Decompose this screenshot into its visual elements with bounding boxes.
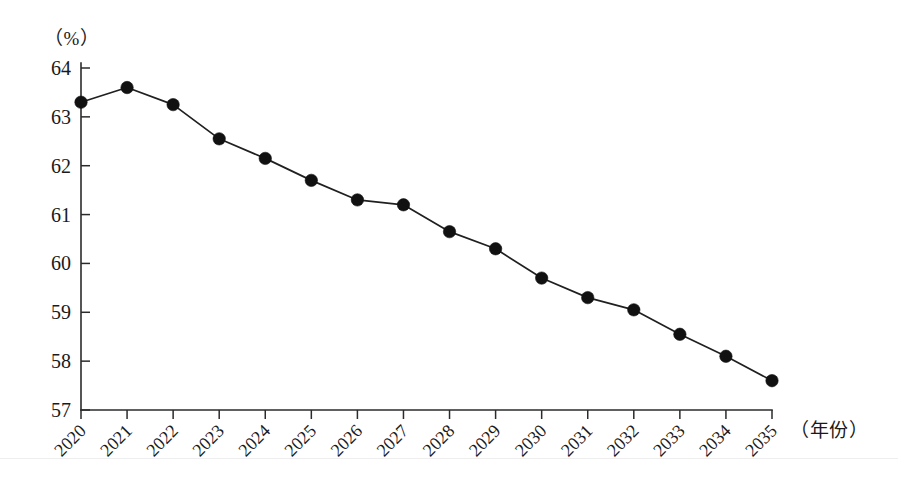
x-axis-tick-label: 2021 [96,421,136,461]
y-axis-tick-label: 64 [51,57,71,79]
y-axis-tick-label: 60 [51,252,71,274]
x-axis-tick-label: 2032 [603,421,643,461]
data-point-marker [628,304,640,316]
y-axis-tick-label: 58 [51,350,71,372]
chart-figure: （%） （年份） 5758596061626364 20202021202220… [0,0,898,477]
x-axis-tick-label: 2031 [557,421,597,461]
x-axis-tick-label: 2025 [281,421,321,461]
data-point-marker [351,194,363,206]
y-axis-unit-label: （%） [44,28,99,49]
x-axis-tick-label: 2028 [419,421,459,461]
data-point-marker [75,96,87,108]
scan-artifact-line [0,458,898,459]
x-axis-tick-label: 2035 [741,421,781,461]
data-point-marker [489,243,501,255]
data-point-marker [305,174,317,186]
data-point-marker [720,350,732,362]
x-axis-ticks [81,410,772,419]
x-axis-tick-label: 2029 [465,421,505,461]
x-axis-tick-label: 2022 [142,421,182,461]
x-axis-tick-label: 2023 [188,421,228,461]
x-axis-tick-label: 2024 [234,421,274,461]
data-point-marker [535,272,547,284]
x-axis-tick-label: 2034 [695,421,735,461]
x-axis-tick-label: 2030 [511,421,551,461]
y-axis-tick-label: 57 [51,399,71,421]
y-axis-tick-label: 61 [51,204,71,226]
x-axis-tick-label: 2033 [649,421,689,461]
y-axis-tick-labels: 5758596061626364 [51,57,71,421]
y-axis-tick-label: 62 [51,155,71,177]
x-axis-name-label: （年份） [790,420,868,441]
data-point-marker [167,98,179,110]
data-point-marker [443,225,455,237]
data-point-marker [121,81,133,93]
data-point-marker [766,374,778,386]
data-point-marker [213,133,225,145]
data-point-marker [259,152,271,164]
x-axis-tick-label: 2020 [50,421,90,461]
y-axis-tick-label: 59 [51,301,71,323]
y-axis-ticks [81,68,90,410]
line-chart: （%） （年份） 5758596061626364 20202021202220… [0,0,898,477]
x-axis-tick-label: 2027 [373,421,413,461]
x-axis-tick-label: 2026 [327,421,367,461]
data-series-line [81,88,772,381]
y-axis-tick-label: 63 [51,106,71,128]
data-point-marker [397,199,409,211]
x-axis-tick-labels: 2020202120222023202420252026202720282029… [50,421,781,461]
data-point-marker [582,291,594,303]
data-point-marker [674,328,686,340]
data-point-markers [75,81,778,387]
